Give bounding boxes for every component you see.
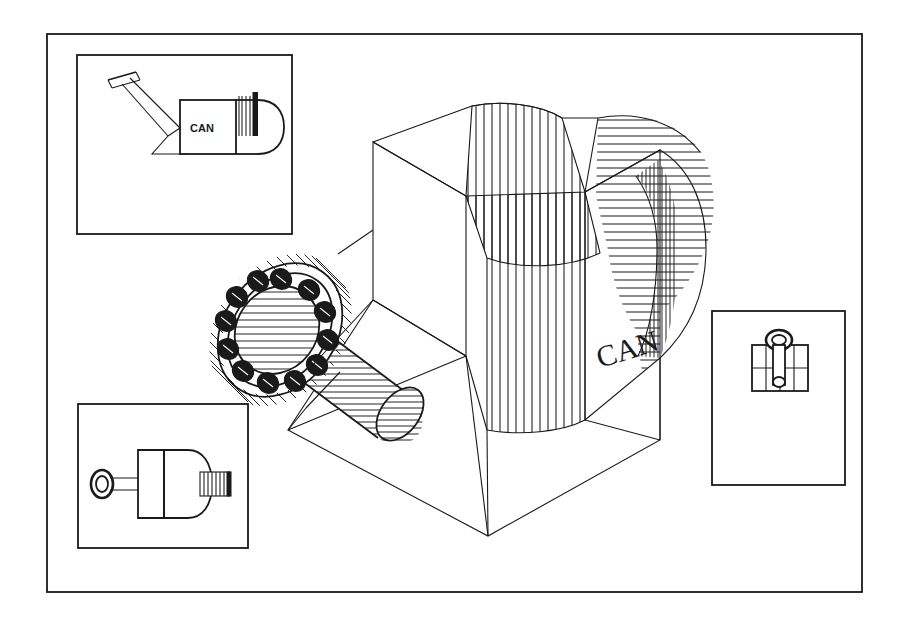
block-right-cut-hatch [580,112,730,368]
block-base-prism [288,300,660,536]
inset-can-label: CAN [190,122,214,134]
main-view-label: CAN [592,324,662,374]
block-right-face [585,150,706,420]
right-cut-top-arc [598,116,700,152]
threaded-stud [200,468,231,500]
drawing-canvas: CAN [0,0,900,625]
cut-bottom-arc [487,420,585,433]
eyelet-ring [91,470,113,498]
technical-drawing: CAN [0,0,900,625]
block-front-cut-hatch [468,180,580,440]
inset-watering-can: CAN [77,55,292,234]
inset-side-elevation [78,404,248,548]
inset-end-elevation [712,311,845,485]
